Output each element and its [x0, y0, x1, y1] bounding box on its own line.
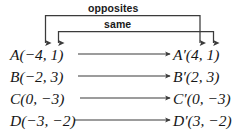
- reflection-mapping-diagram: opposites same A(−4, 1) A′(4, 1) B(−2, 3…: [0, 0, 240, 139]
- image-point-b: B′(2, 3): [173, 69, 219, 85]
- preimage-point-c: C(0, −3): [10, 91, 64, 107]
- preimage-point-a: A(−4, 1): [10, 47, 64, 63]
- preimage-point-d: D(−3, −2): [10, 113, 76, 129]
- image-point-a: A′(4, 1): [173, 47, 219, 63]
- bracket-label-same: same: [104, 19, 131, 30]
- bracket-same: [59, 32, 214, 44]
- bracket-label-opposites: opposites: [88, 3, 139, 14]
- preimage-point-b: B(−2, 3): [10, 69, 64, 85]
- image-point-c: C′(0, −3): [173, 91, 231, 107]
- image-point-d: D′(3, −2): [173, 113, 232, 129]
